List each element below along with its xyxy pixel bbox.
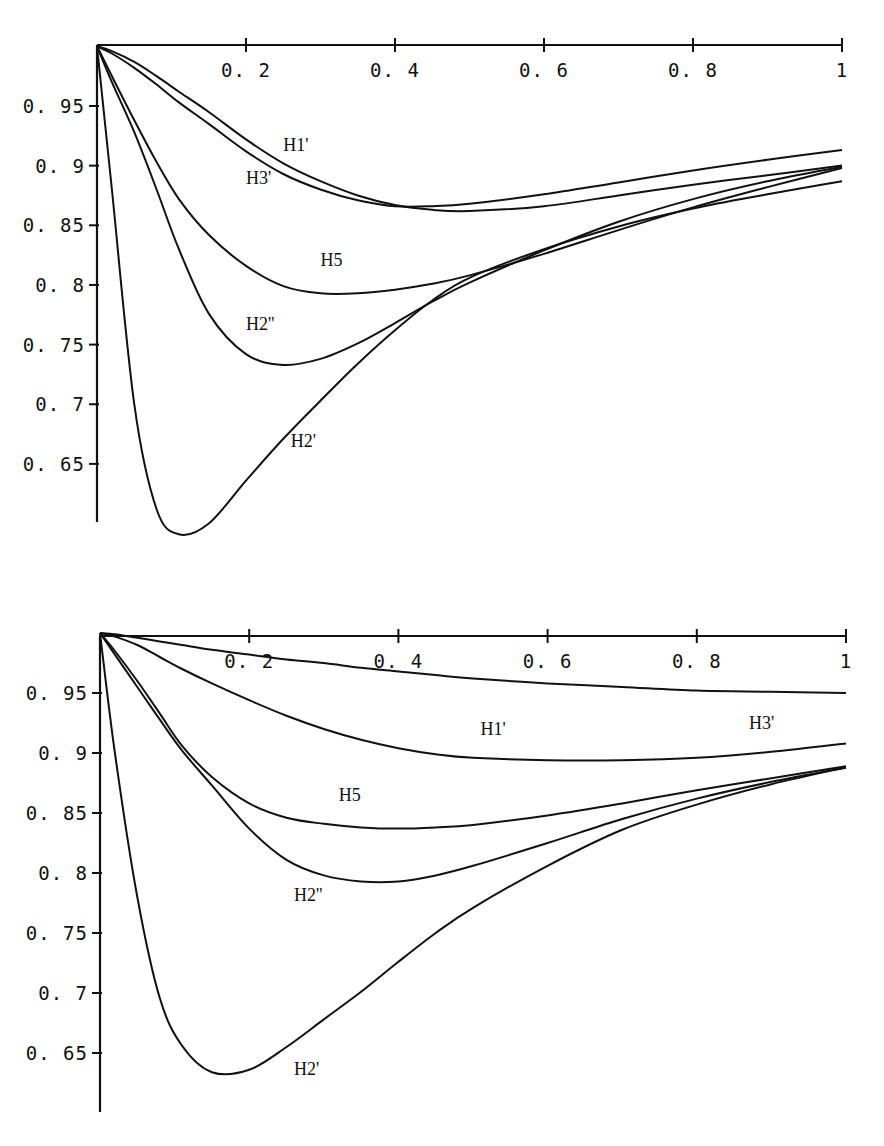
x-tick-label: 0. 6 (519, 59, 569, 81)
y-tick-label: 0. 95 (26, 682, 88, 704)
y-tick-label: 0. 7 (38, 982, 88, 1004)
series-label: H2'' (294, 885, 323, 905)
x-tick-label: 0. 4 (370, 59, 420, 81)
y-tick-label: 0. 95 (23, 95, 85, 117)
series-labels: H3'H1'H5H2''H2' (294, 713, 774, 1079)
y-tick-label: 0. 75 (23, 334, 85, 356)
series-curve-H2p (97, 46, 842, 535)
series-label: H3' (246, 168, 271, 188)
y-tick-label: 0. 65 (26, 1042, 88, 1064)
series-curve-H2p (100, 633, 846, 1074)
x-tick-label: 0. 8 (672, 650, 722, 672)
series-label: H2' (291, 431, 316, 451)
y-tick-label: 0. 7 (35, 393, 85, 415)
x-tick-label: 1 (840, 650, 852, 672)
y-ticks: 0. 950. 90. 850. 80. 750. 70. 65 (26, 682, 102, 1064)
series-label: H3' (749, 713, 774, 733)
x-tick-label: 1 (836, 59, 848, 81)
figure-canvas: 0. 20. 40. 60. 81 0. 950. 90. 850. 80. 7… (0, 0, 884, 1146)
series-curve-H5 (100, 633, 846, 829)
y-tick-label: 0. 9 (35, 155, 85, 177)
series-label: H2' (294, 1059, 319, 1079)
curves (100, 633, 846, 1074)
y-ticks: 0. 950. 90. 850. 80. 750. 70. 65 (23, 95, 99, 475)
x-tick-label: 0. 2 (221, 59, 271, 81)
y-tick-label: 0. 8 (38, 862, 88, 884)
y-tick-label: 0. 9 (38, 742, 88, 764)
series-label: H5 (339, 785, 361, 805)
curves (97, 46, 842, 535)
series-curve-H2pp (97, 46, 842, 365)
y-tick-label: 0. 8 (35, 274, 85, 296)
bottom-plot: 0. 20. 40. 60. 81 0. 950. 90. 850. 80. 7… (26, 629, 852, 1112)
y-tick-label: 0. 85 (23, 214, 85, 236)
series-curve-H1p (100, 633, 846, 761)
x-tick-label: 0. 8 (668, 59, 718, 81)
series-label: H5 (321, 250, 343, 270)
series-label: H2'' (246, 314, 275, 334)
y-tick-label: 0. 75 (26, 922, 88, 944)
series-label: H1' (283, 135, 308, 155)
series-curve-H5 (97, 46, 842, 294)
x-tick-label: 0. 4 (374, 650, 424, 672)
series-curve-H3p (97, 46, 842, 206)
series-curve-H1p (97, 46, 842, 211)
y-tick-label: 0. 85 (26, 802, 88, 824)
series-label: H1' (480, 719, 505, 739)
top-plot: 0. 20. 40. 60. 81 0. 950. 90. 850. 80. 7… (23, 38, 848, 535)
x-tick-label: 0. 6 (523, 650, 573, 672)
y-tick-label: 0. 65 (23, 453, 85, 475)
